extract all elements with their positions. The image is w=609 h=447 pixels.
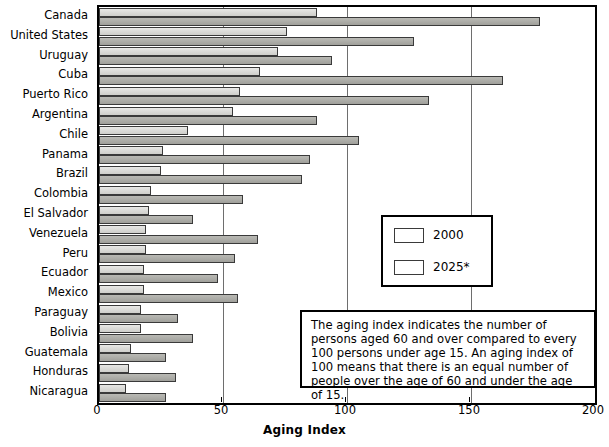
y-axis-label-peru: Peru [0, 247, 92, 258]
bar-peru-2000 [99, 245, 146, 254]
x-tick-label-200: 200 [582, 403, 604, 417]
y-axis-label-ecuador: Ecuador [0, 267, 92, 278]
y-axis-label-guatemala: Guatemala [0, 346, 92, 357]
bar-brazil-2025 [99, 175, 302, 184]
y-axis-label-cuba: Cuba [0, 69, 92, 80]
x-tick-mark-50 [221, 397, 222, 402]
y-axis-label-el-salvador: El Salvador [0, 207, 92, 218]
x-tick-label-0: 0 [93, 403, 100, 417]
bar-canada-2000 [99, 8, 317, 17]
bar-venezuela-2025 [99, 235, 258, 244]
bar-united-states-2025 [99, 37, 414, 46]
bar-united-states-2000 [99, 27, 287, 36]
bar-paraguay-2025 [99, 314, 178, 323]
legend-swatch-2025 [394, 260, 424, 275]
bar-mexico-2000 [99, 285, 144, 294]
x-tick-mark-100 [345, 397, 346, 402]
bar-argentina-2025 [99, 116, 317, 125]
y-axis-label-nicaragua: Nicaragua [0, 386, 92, 397]
x-axis-title: Aging Index [0, 423, 609, 437]
bar-argentina-2000 [99, 107, 233, 116]
legend-item-2000: 2000 [394, 226, 464, 244]
y-axis-label-chile: Chile [0, 128, 92, 139]
aging-index-bar-chart: CanadaUnited StatesUruguayCubaPuerto Ric… [0, 0, 609, 447]
bar-chile-2000 [99, 126, 188, 135]
bar-paraguay-2000 [99, 305, 141, 314]
bar-panama-2000 [99, 146, 163, 155]
x-tick-label-150: 150 [458, 403, 480, 417]
bar-honduras-2000 [99, 364, 129, 373]
legend-item-2025: 2025* [394, 258, 470, 276]
bar-uruguay-2000 [99, 47, 278, 56]
y-axis-label-honduras: Honduras [0, 366, 92, 377]
bar-panama-2025 [99, 155, 310, 164]
bar-cuba-2000 [99, 67, 260, 76]
bar-ecuador-2000 [99, 265, 144, 274]
bar-el-salvador-2000 [99, 206, 149, 215]
annotation-textbox: The aging index indicates the number of … [300, 310, 596, 388]
x-tick-mark-150 [469, 397, 470, 402]
x-tick-label-100: 100 [334, 403, 356, 417]
bar-puerto-rico-2025 [99, 96, 429, 105]
x-axis-ticks: 050100150200 [0, 403, 609, 419]
y-axis-label-uruguay: Uruguay [0, 49, 92, 60]
bar-nicaragua-2000 [99, 384, 126, 393]
bar-honduras-2025 [99, 373, 176, 382]
bar-venezuela-2000 [99, 225, 146, 234]
y-axis-label-canada: Canada [0, 9, 92, 20]
legend-label-2025: 2025* [433, 261, 470, 273]
bar-colombia-2025 [99, 195, 243, 204]
bar-canada-2025 [99, 17, 540, 26]
y-axis-label-paraguay: Paraguay [0, 306, 92, 317]
y-axis-label-united-states: United States [0, 29, 92, 40]
bar-guatemala-2025 [99, 353, 166, 362]
bar-el-salvador-2025 [99, 215, 193, 224]
y-axis-label-bolivia: Bolivia [0, 326, 92, 337]
bar-uruguay-2025 [99, 56, 332, 65]
legend-swatch-2000 [394, 228, 424, 243]
bar-puerto-rico-2000 [99, 87, 240, 96]
bar-colombia-2000 [99, 186, 151, 195]
x-tick-label-50: 50 [214, 403, 229, 417]
bar-chile-2025 [99, 136, 359, 145]
bar-bolivia-2000 [99, 324, 141, 333]
y-axis-label-puerto-rico: Puerto Rico [0, 89, 92, 100]
bar-peru-2025 [99, 254, 235, 263]
bar-nicaragua-2025 [99, 393, 166, 402]
y-axis-label-mexico: Mexico [0, 287, 92, 298]
y-axis-label-venezuela: Venezuela [0, 227, 92, 238]
bar-bolivia-2025 [99, 334, 193, 343]
y-axis-label-argentina: Argentina [0, 108, 92, 119]
y-axis-label-brazil: Brazil [0, 168, 92, 179]
bar-ecuador-2025 [99, 274, 218, 283]
chart-legend: 2000 2025* [381, 215, 493, 287]
bar-guatemala-2000 [99, 344, 131, 353]
y-axis-category-labels: CanadaUnited StatesUruguayCubaPuerto Ric… [0, 5, 92, 401]
y-axis-label-colombia: Colombia [0, 188, 92, 199]
bar-brazil-2000 [99, 166, 161, 175]
y-axis-label-panama: Panama [0, 148, 92, 159]
bar-mexico-2025 [99, 294, 238, 303]
bar-cuba-2025 [99, 76, 503, 85]
legend-label-2000: 2000 [433, 229, 464, 241]
